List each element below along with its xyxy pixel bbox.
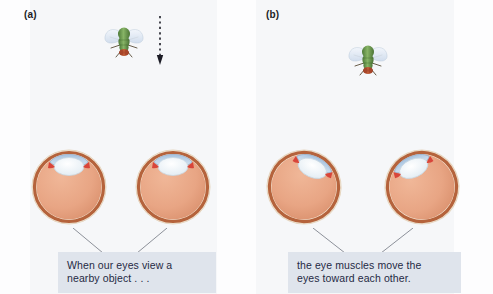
- caption-panel-b: the eye muscles move the eyes toward eac…: [288, 252, 461, 293]
- eye-diagram-right-straight: [131, 142, 215, 228]
- caption-leader-lines-a: [55, 228, 185, 254]
- convergence-figure: (a) (b): [0, 0, 493, 294]
- panel-label-a: (a): [24, 9, 37, 20]
- eye-diagram-left-straight: [27, 142, 111, 228]
- caption-panel-a: When our eyes view a nearby object . . .: [58, 252, 216, 293]
- fly-icon: [101, 20, 147, 60]
- fly-icon: [345, 38, 391, 78]
- caption-leader-lines-b: [295, 228, 430, 254]
- downward-dashed-arrow-icon: [154, 15, 166, 67]
- eye-diagram-right-converged: [380, 142, 464, 228]
- eye-diagram-left-converged: [262, 142, 346, 228]
- panel-label-b: (b): [266, 9, 279, 20]
